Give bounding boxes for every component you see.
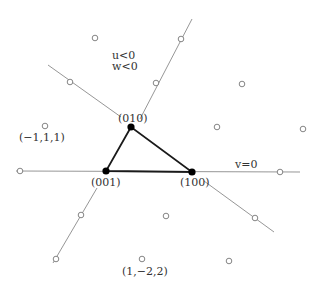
open-point bbox=[277, 169, 283, 175]
open-point bbox=[178, 36, 184, 42]
triangle-vertices bbox=[102, 123, 195, 175]
label-vertex-100: (100) bbox=[180, 176, 210, 189]
open-point bbox=[42, 123, 48, 129]
upper-left-ray bbox=[48, 65, 121, 117]
triangle-edges bbox=[106, 127, 192, 172]
lower-right-ray bbox=[204, 181, 274, 232]
label-point-1m22: (1,−2,2) bbox=[122, 265, 168, 278]
lower-left-ray bbox=[53, 188, 97, 263]
open-point bbox=[53, 256, 59, 262]
triangle-outline bbox=[106, 127, 192, 172]
label-point-m111: (−1,1,1) bbox=[19, 131, 65, 144]
open-point bbox=[67, 79, 73, 85]
open-point bbox=[252, 215, 258, 221]
open-point bbox=[226, 258, 232, 264]
open-point bbox=[78, 212, 84, 218]
open-point bbox=[17, 168, 23, 174]
open-point bbox=[300, 126, 306, 132]
vertex-001 bbox=[102, 167, 109, 174]
vertex-100 bbox=[188, 168, 195, 175]
lattice-diagram: (010) (001) (100) u<0 w<0 v=0 (−1,1,1) (… bbox=[0, 0, 321, 290]
label-line-v0: v=0 bbox=[234, 158, 257, 171]
label-vertex-010: (010) bbox=[118, 112, 148, 125]
upper-right-ray bbox=[140, 19, 192, 119]
open-point bbox=[92, 35, 98, 41]
open-point bbox=[239, 81, 245, 87]
label-region-w: w<0 bbox=[112, 60, 138, 73]
label-vertex-001: (001) bbox=[91, 176, 121, 189]
open-point bbox=[214, 124, 220, 130]
open-point bbox=[139, 256, 145, 262]
open-point bbox=[153, 80, 159, 86]
open-point bbox=[163, 213, 169, 219]
diagram-canvas: (010) (001) (100) u<0 w<0 v=0 (−1,1,1) (… bbox=[0, 0, 321, 290]
